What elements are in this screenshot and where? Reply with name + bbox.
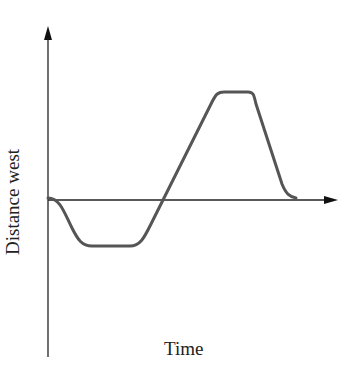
y-axis-arrow-icon [44,26,52,40]
y-axis-label: Distance west [2,105,24,255]
x-axis-arrow-icon [324,196,338,204]
x-axis-label: Time [164,338,203,360]
y-axis [44,26,52,357]
distance-time-chart [0,0,350,373]
position-curve [48,92,296,246]
